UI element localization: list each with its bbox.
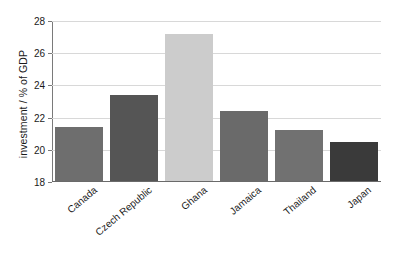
x-axis-category-label: Czech Republic xyxy=(91,182,154,238)
bar[interactable] xyxy=(165,34,213,182)
bar[interactable] xyxy=(330,142,378,182)
bar[interactable] xyxy=(110,95,158,182)
bar[interactable] xyxy=(55,127,103,182)
y-axis-tick-label: 22 xyxy=(34,112,45,123)
y-axis-tick-label: 26 xyxy=(34,48,45,59)
y-axis-tick-label: 20 xyxy=(34,144,45,155)
x-axis-category-label: Canada xyxy=(63,182,99,215)
x-axis-labels: CanadaCzech RepublicGhanaJamaicaThailand… xyxy=(52,182,381,259)
y-axis-tick-label: 18 xyxy=(34,177,45,188)
y-axis-tick-label: 28 xyxy=(34,16,45,27)
bar[interactable] xyxy=(275,130,323,182)
x-axis-category-label: Thailand xyxy=(280,182,318,217)
bar-chart: investment / % of GDP 182022242628 Canad… xyxy=(0,0,394,259)
plot-area: 182022242628 xyxy=(52,21,381,182)
x-axis-category-label: Ghana xyxy=(177,182,209,212)
y-axis-title: investment / % of GDP xyxy=(17,19,29,189)
x-axis-category-label: Jamaica xyxy=(226,182,264,217)
bar[interactable] xyxy=(220,111,268,182)
x-axis-category-label: Japan xyxy=(343,182,373,210)
y-axis-tick-label: 24 xyxy=(34,80,45,91)
bars-layer xyxy=(52,21,381,182)
